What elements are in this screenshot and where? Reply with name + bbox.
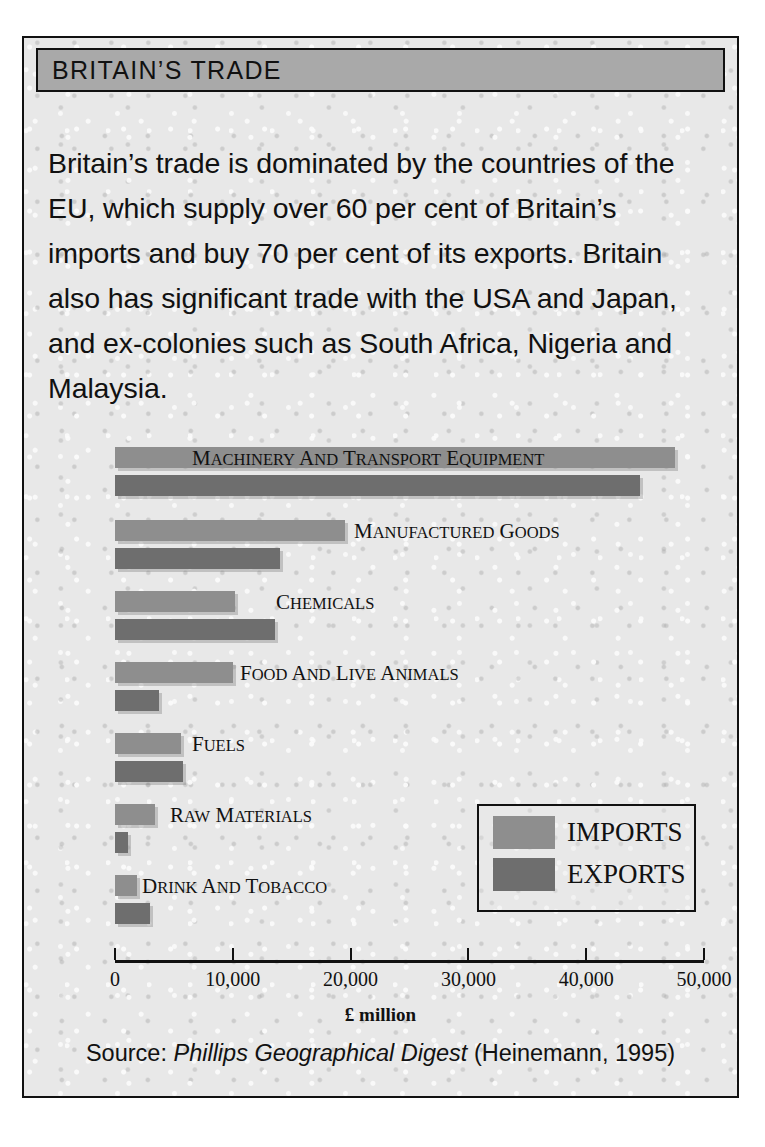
category-label-6: DRINK AND TOBACCO xyxy=(142,876,327,898)
x-tick-5 xyxy=(703,948,705,960)
bar-exports-1 xyxy=(115,548,280,569)
bar-imports-2 xyxy=(115,591,235,612)
bar-exports-6 xyxy=(115,903,150,924)
legend-swatch-imports xyxy=(493,816,555,849)
legend-swatch-exports xyxy=(493,858,555,891)
x-axis-title: £ million xyxy=(24,1004,737,1026)
source-suffix: (Heinemann, 1995) xyxy=(467,1040,675,1066)
x-tick-0 xyxy=(114,948,116,960)
bar-imports-6 xyxy=(115,875,137,896)
legend-item-exports: EXPORTS xyxy=(493,858,685,891)
bar-imports-1 xyxy=(115,520,345,541)
x-tick-label-2: 20,000 xyxy=(323,968,378,991)
legend-label-imports: IMPORTS xyxy=(567,819,682,846)
x-tick-label-4: 40,000 xyxy=(559,968,614,991)
source-prefix: Source: xyxy=(86,1040,174,1066)
x-tick-2 xyxy=(350,948,352,960)
category-label-0: MACHINERY AND TRANSPORT EQUIPMENT xyxy=(192,448,544,470)
britains-trade-card: BRITAIN’S TRADE Britain’s trade is domin… xyxy=(22,36,739,1098)
source-title: Phillips Geographical Digest xyxy=(173,1040,467,1066)
bar-exports-4 xyxy=(115,761,183,782)
category-label-4: FUELS xyxy=(192,734,245,756)
trade-bar-chart: MACHINERY AND TRANSPORT EQUIPMENTMANUFAC… xyxy=(24,416,737,1016)
x-tick-label-3: 30,000 xyxy=(441,968,496,991)
x-axis-line xyxy=(115,960,704,963)
x-tick-label-5: 50,000 xyxy=(677,968,732,991)
x-tick-4 xyxy=(585,948,587,960)
category-label-3: FOOD AND LIVE ANIMALS xyxy=(240,663,459,685)
category-label-2: CHEMICALS xyxy=(276,592,374,614)
x-tick-label-0: 0 xyxy=(110,968,120,991)
x-tick-1 xyxy=(232,948,234,960)
x-tick-3 xyxy=(467,948,469,960)
card-title-band: BRITAIN’S TRADE xyxy=(36,48,725,92)
bar-exports-2 xyxy=(115,619,275,640)
category-label-5: RAW MATERIALS xyxy=(170,805,312,827)
legend-item-imports: IMPORTS xyxy=(493,816,682,849)
bar-imports-3 xyxy=(115,662,233,683)
intro-paragraph: Britain’s trade is dominated by the coun… xyxy=(48,141,716,411)
page-title: BRITAIN’S TRADE xyxy=(38,56,282,85)
bar-exports-5 xyxy=(115,832,128,853)
bar-exports-0 xyxy=(115,475,640,496)
source-line: Source: Phillips Geographical Digest (He… xyxy=(24,1040,737,1067)
x-tick-label-1: 10,000 xyxy=(205,968,260,991)
bar-imports-4 xyxy=(115,733,181,754)
category-label-1: MANUFACTURED GOODS xyxy=(354,521,560,543)
bar-imports-5 xyxy=(115,804,155,825)
legend-label-exports: EXPORTS xyxy=(567,861,685,888)
chart-legend: IMPORTS EXPORTS xyxy=(477,804,696,912)
bar-exports-3 xyxy=(115,690,159,711)
